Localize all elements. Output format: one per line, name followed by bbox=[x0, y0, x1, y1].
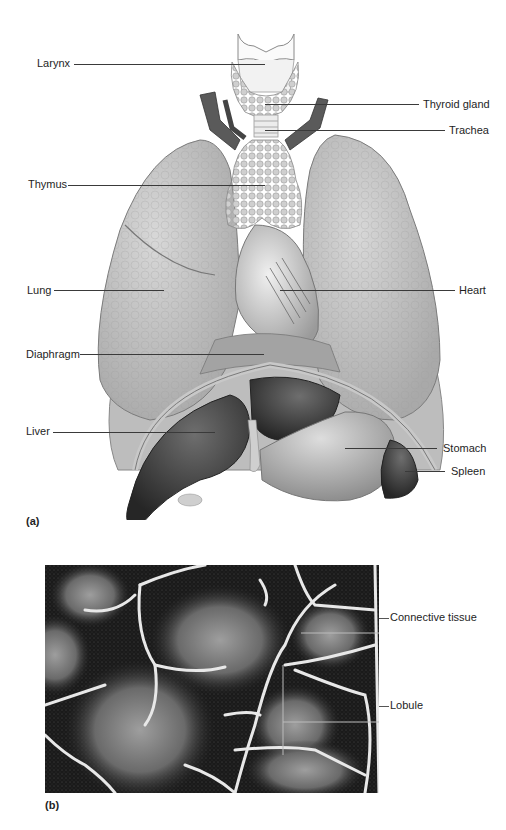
leader-thymus bbox=[68, 185, 265, 186]
leader-lobule bbox=[379, 706, 389, 707]
label-connective-tissue: Connective tissue bbox=[390, 611, 477, 624]
label-lobule: Lobule bbox=[390, 699, 423, 712]
label-larynx: Larynx bbox=[37, 57, 70, 70]
label-thymus: Thymus bbox=[28, 178, 67, 191]
leader-thyroid bbox=[265, 104, 419, 105]
leader-diaphragm bbox=[80, 354, 264, 355]
leader-lung bbox=[54, 290, 164, 291]
label-heart: Heart bbox=[459, 284, 486, 297]
label-liver: Liver bbox=[26, 425, 50, 438]
panel-b-letter: (b) bbox=[45, 799, 59, 811]
micrograph-image bbox=[45, 565, 379, 793]
leader-larynx bbox=[74, 64, 265, 65]
panel-a-letter: (a) bbox=[26, 515, 39, 527]
label-stomach: Stomach bbox=[443, 442, 486, 455]
thymus-micrograph bbox=[45, 565, 379, 793]
leader-heart bbox=[280, 290, 455, 291]
label-thyroid-gland: Thyroid gland bbox=[423, 98, 490, 111]
leader-stomach bbox=[345, 448, 437, 449]
leader-spleen bbox=[405, 471, 445, 472]
label-trachea: Trachea bbox=[449, 124, 489, 137]
leader-trachea bbox=[265, 130, 445, 131]
anatomy-figure: Larynx Thyroid gland Trachea Thymus Lung… bbox=[0, 0, 506, 830]
leader-connective-tissue bbox=[379, 618, 389, 619]
label-diaphragm: Diaphragm bbox=[26, 348, 80, 361]
label-lung: Lung bbox=[27, 284, 51, 297]
thoracic-organs-illustration bbox=[0, 0, 506, 520]
label-spleen: Spleen bbox=[451, 465, 485, 478]
leader-liver bbox=[53, 432, 215, 433]
